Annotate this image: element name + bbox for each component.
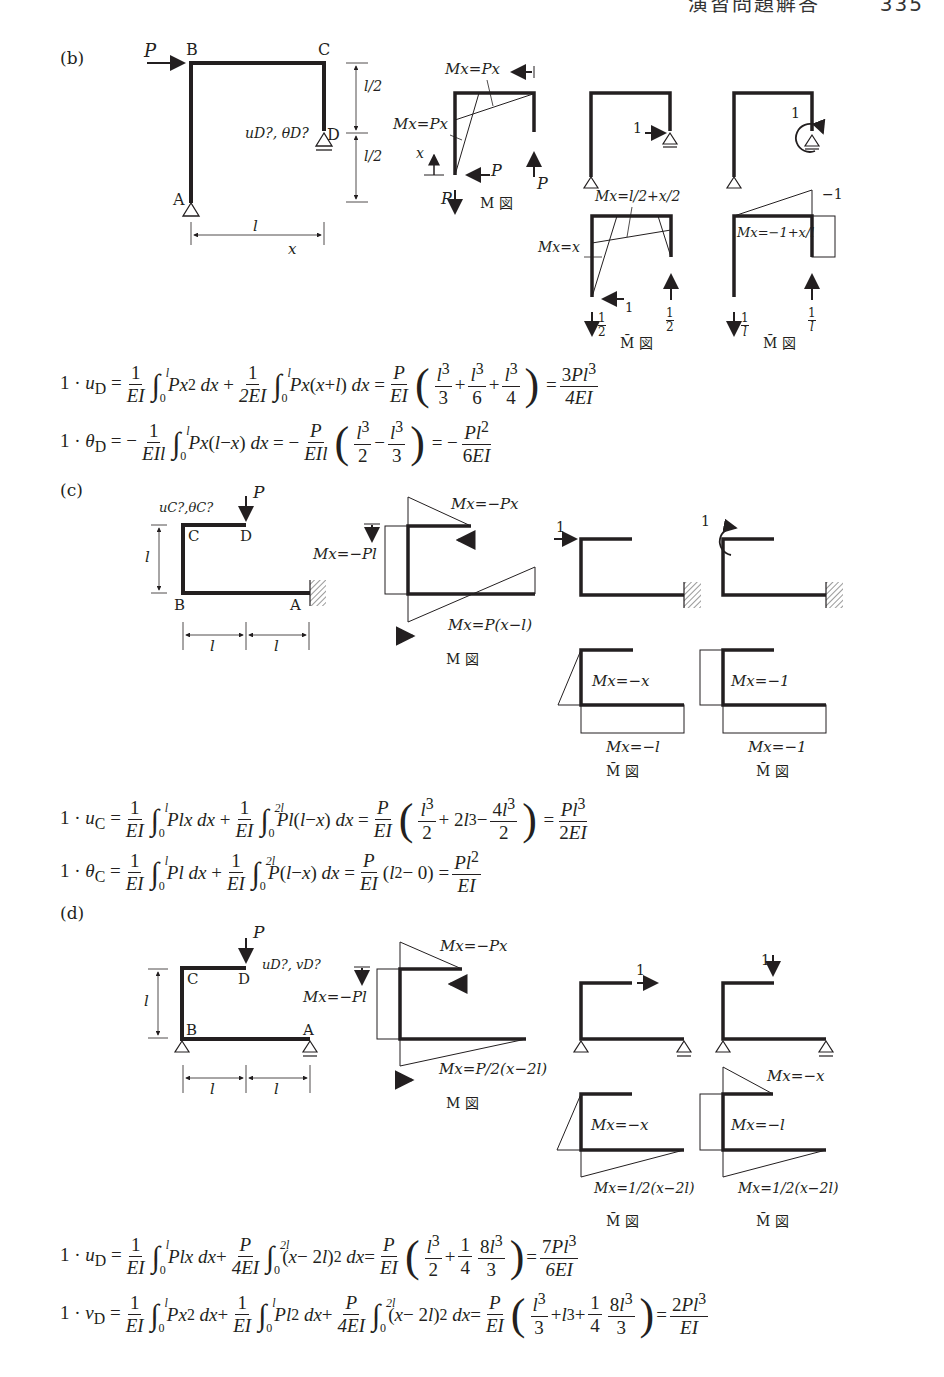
b-m-title: M 図: [480, 192, 513, 212]
b-node-b: B: [186, 40, 198, 59]
d-node-b: B: [186, 1021, 197, 1039]
d-m-label-top: Mx=−Px: [440, 937, 508, 955]
unit-load-b-2: [727, 93, 823, 188]
equation-d-1: 1 · uD = 1EI ∫l0 Plx dx+ P4EI ∫2l0 (x − …: [60, 1232, 581, 1281]
unit-load-b-1: [584, 93, 677, 188]
section-label-d: (d): [60, 903, 84, 923]
d-mbar2-label-top: Mx=−x: [767, 1067, 824, 1085]
b-m-x-axis: x: [416, 145, 424, 161]
c-dim-span-1: l: [210, 637, 215, 655]
equation-c-2: 1 · θC = 1EI ∫l0 Pl dx + 1EI ∫2l0 P(l − …: [60, 848, 484, 897]
c-mbar1-label-mid: Mx=−x: [592, 672, 649, 690]
b-node-d: D: [327, 125, 340, 144]
b-node-c: C: [318, 40, 330, 59]
b-unit2-label: 1: [791, 105, 800, 121]
unit-load-c-2: [720, 528, 843, 608]
b-node-a: A: [173, 190, 185, 209]
c-dim-span-2: l: [274, 637, 279, 655]
d-node-c: C: [187, 970, 198, 988]
b-m-reaction-right: P: [537, 174, 548, 193]
b-mbar1-title: M̄ 図: [620, 332, 653, 352]
c-m-label-bottom: Mx=P(x−l): [448, 616, 532, 634]
c-mbar1-label-bottom: Mx=−l: [606, 738, 660, 756]
mbar-diagram-b-2: [734, 190, 835, 335]
c-m-title: M 図: [446, 648, 479, 668]
c-unit1-label: 1: [556, 519, 565, 535]
mbar-diagram-d-1: [557, 1094, 684, 1177]
d-mbar1-title: M̄ 図: [606, 1210, 639, 1230]
b-m-label-top: Mx=Px: [445, 60, 500, 78]
c-mbar2-label-bottom: Mx=−1: [748, 738, 807, 756]
c-node-b: B: [174, 596, 185, 614]
d-mbar1-label-bottom: Mx=1/2(x−2l): [594, 1180, 694, 1196]
d-unit1-label: 1: [636, 962, 645, 978]
b-mbar2-label-mid: Mx=−1+x/l: [737, 225, 814, 240]
b-dim-top: l/2: [364, 78, 382, 94]
c-node-c: C: [188, 527, 199, 545]
c-node-a: A: [290, 596, 301, 614]
section-label-c: (c): [60, 480, 83, 500]
pin-support-icon: [183, 203, 199, 216]
d-node-d: D: [238, 970, 250, 988]
b-m-reaction-h: P: [491, 161, 502, 180]
c-mbar1-title: M̄ 図: [606, 760, 639, 780]
figures-svg: [0, 0, 944, 1377]
b-mbar1-label-left: Mx=x: [538, 239, 580, 255]
b-mbar2-left-frac: 1l: [741, 312, 749, 339]
unit-load-c-1: [554, 539, 701, 608]
b-unit1-label: 1: [633, 120, 642, 136]
b-mbar1-left-frac: 12: [598, 312, 606, 339]
equation-c-1: 1 · uC = 1EI ∫l0 Plx dx + 1EI ∫2l0 Pl(l …: [60, 795, 592, 844]
equation-b-1: 1 · uD = 1EI ∫l0 Px2 dx + 12EI ∫l0 Px(x …: [60, 360, 601, 409]
d-unknowns: uD?, vD?: [262, 957, 321, 972]
b-mbar1-label-top: Mx=l/2+x/2: [595, 188, 680, 204]
c-node-d: D: [240, 527, 252, 545]
d-mbar2-title: M̄ 図: [756, 1210, 789, 1230]
c-mbar2-title: M̄ 図: [756, 760, 789, 780]
c-unknowns: uC?,θC?: [159, 500, 213, 515]
c-m-label-left: Mx=−Pl: [313, 545, 377, 563]
mbar-diagram-c-1: [558, 650, 684, 733]
d-m-label-left: Mx=−Pl: [303, 988, 367, 1006]
b-m-label-left: Mx=Px: [393, 115, 448, 133]
c-mbar2-label-mid: Mx=−1: [731, 672, 790, 690]
d-unit2-label: 1: [761, 952, 770, 968]
equation-d-2: 1 · vD = 1EI ∫l0 Px2 dx+ 1EI ∫l0 Pl2 dx+…: [60, 1290, 711, 1339]
d-dim-span-2: l: [274, 1080, 279, 1098]
b-mbar2-title: M̄ 図: [763, 332, 796, 352]
d-m-title: M 図: [446, 1092, 479, 1112]
d-m-label-bottom: Mx=P/2(x−2l): [439, 1060, 547, 1078]
unit-load-d-2: [716, 955, 833, 1056]
b-mbar2-right-frac: 1l: [808, 307, 816, 334]
fixed-support-icon: [310, 580, 326, 606]
equation-b-2: 1 · θD = − 1EIl ∫l0 Px(l − x) dx = − PEI…: [60, 418, 495, 467]
d-dim-height: l: [144, 992, 149, 1010]
b-load-label: P: [144, 40, 156, 61]
b-dim-span: l: [253, 217, 258, 235]
b-mbar1-reaction-h: 1: [625, 300, 633, 315]
d-node-a: A: [303, 1021, 314, 1039]
mbar-diagram-c-2: [700, 650, 826, 733]
b-m-reaction-left: P: [441, 189, 452, 208]
b-coord-x: x: [288, 240, 296, 258]
d-mbar2-label-mid: Mx=−l: [731, 1116, 785, 1134]
b-mbar2-label-corner: −1: [822, 186, 843, 202]
d-mbar2-label-bottom: Mx=1/2(x−2l): [738, 1180, 838, 1196]
b-mbar1-right-frac: 12: [666, 307, 674, 334]
c-load-label: P: [253, 482, 264, 502]
d-dim-span-1: l: [210, 1080, 215, 1098]
d-load-label: P: [253, 922, 264, 942]
c-dim-height: l: [145, 548, 150, 566]
structure-c: [151, 496, 326, 650]
c-unit2-label: 1: [701, 513, 710, 529]
d-mbar1-label-mid: Mx=−x: [591, 1116, 648, 1134]
b-dim-bottom: l/2: [364, 148, 382, 164]
b-unknowns: uD?, θD?: [245, 125, 309, 141]
c-m-label-top: Mx=−Px: [451, 495, 519, 513]
unit-load-d-1: [574, 983, 691, 1056]
